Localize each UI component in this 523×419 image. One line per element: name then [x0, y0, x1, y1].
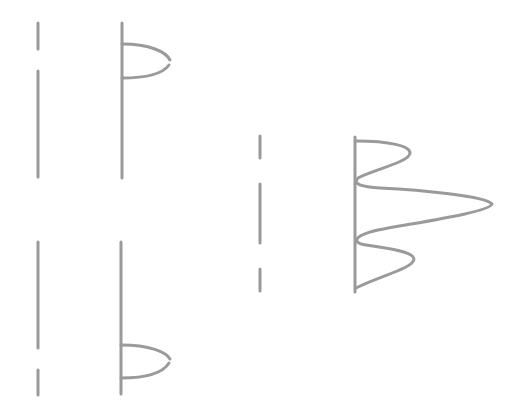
single-slit-bottom-panel	[38, 242, 170, 395]
intensity-pattern	[356, 141, 492, 288]
double-slit-panel	[260, 136, 492, 292]
diagram-svg	[0, 0, 523, 419]
intensity-pattern	[122, 44, 170, 78]
single-slit-top-panel	[38, 23, 170, 178]
intensity-pattern	[121, 345, 170, 378]
slit-diffraction-diagram	[0, 0, 523, 419]
